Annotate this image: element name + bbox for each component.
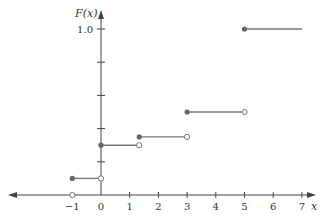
x-tick-label: 0: [98, 201, 104, 212]
x-tick-label: 2: [155, 201, 161, 212]
open-dot-icon: [98, 176, 103, 181]
y-tick-label: 1.0: [77, 24, 93, 35]
closed-dot-icon: [98, 143, 103, 148]
y-axis-label: F(x): [74, 7, 97, 20]
closed-dot-icon: [70, 176, 75, 181]
x-axis-label: x: [311, 200, 318, 213]
closed-dot-icon: [137, 134, 142, 139]
cdf-step-chart: F(x) x −1012345671.0: [0, 0, 325, 223]
x-tick-label: 6: [270, 201, 276, 212]
x-tick-label: 4: [213, 201, 219, 212]
x-tick-label: 1: [127, 201, 133, 212]
x-tick-label: −1: [65, 201, 80, 212]
open-dot-icon: [242, 109, 247, 114]
x-tick-label: 3: [184, 201, 190, 212]
x-tick-label: 5: [241, 201, 247, 212]
x-axis-left-arrow-icon: [8, 192, 17, 198]
closed-dot-icon: [185, 109, 190, 114]
axes: [8, 10, 316, 198]
open-dot-icon: [185, 134, 190, 139]
open-dot-icon: [70, 192, 75, 197]
step-segments: [70, 26, 302, 197]
open-dot-icon: [137, 143, 142, 148]
x-axis-right-arrow-icon: [307, 192, 316, 198]
closed-dot-icon: [242, 26, 247, 31]
y-axis-arrow-icon: [98, 10, 104, 19]
axis-labels: F(x) x −1012345671.0: [65, 7, 318, 213]
x-tick-label: 7: [299, 201, 305, 212]
